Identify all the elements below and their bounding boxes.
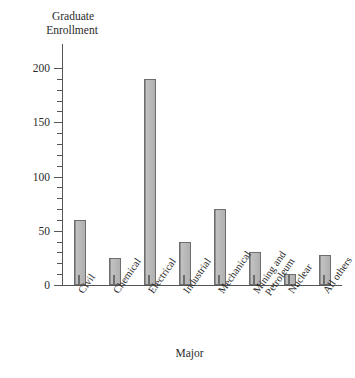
bar-series	[62, 44, 342, 285]
y-tick-label: 50	[0, 225, 50, 237]
y-axis-title-line-2: Enrollment	[17, 24, 127, 38]
bar	[144, 79, 156, 285]
x-axis-tick-labels: CivilChemicalElectricalIndustrialMechani…	[62, 286, 347, 352]
x-axis-title: Major	[0, 347, 355, 359]
bar-chart-figure: Graduate Enrollment 050100150200 CivilCh…	[0, 0, 355, 378]
y-axis-title-line-1: Graduate	[17, 10, 127, 24]
y-tick-major	[54, 68, 62, 69]
y-tick-label: 100	[0, 171, 50, 183]
y-tick-label: 0	[0, 279, 50, 291]
y-tick-major	[54, 231, 62, 232]
x-axis-title-text: Major	[151, 347, 203, 359]
y-tick-label: 150	[0, 116, 50, 128]
y-tick-major	[54, 122, 62, 123]
y-tick-major	[54, 177, 62, 178]
bar	[214, 209, 226, 285]
y-tick-major	[54, 285, 62, 286]
y-tick-label: 200	[0, 62, 50, 74]
y-axis-title: Graduate Enrollment	[17, 10, 127, 37]
